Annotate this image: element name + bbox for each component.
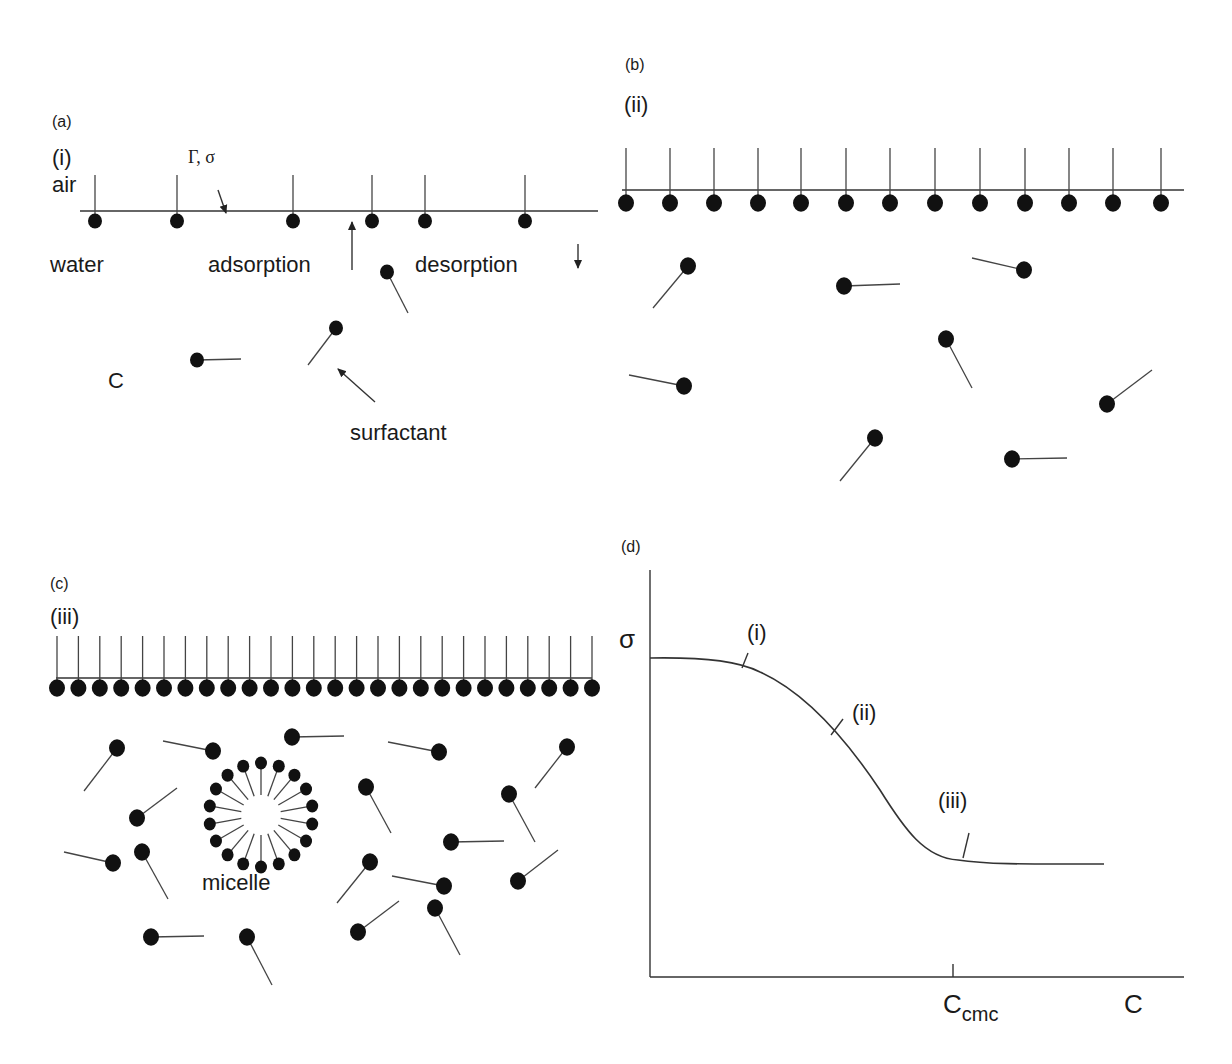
surfactant-molecule bbox=[972, 148, 988, 212]
surfactant-molecule bbox=[563, 636, 579, 697]
surfactant-molecule bbox=[281, 799, 319, 812]
hydrophilic-head bbox=[456, 679, 472, 696]
hydrophilic-head bbox=[170, 213, 184, 228]
hydrophobic-tail bbox=[629, 375, 684, 386]
hydrophilic-head bbox=[242, 679, 258, 696]
surfactant-molecule bbox=[255, 835, 267, 873]
region-label-iii: (iii) bbox=[938, 788, 967, 813]
hydrophilic-head bbox=[210, 835, 222, 848]
surfactant-molecule bbox=[938, 330, 972, 388]
hydrophilic-head bbox=[327, 679, 343, 696]
surfactant-molecule bbox=[135, 636, 151, 697]
hydrophilic-head bbox=[1061, 194, 1077, 211]
hydrophilic-head bbox=[662, 194, 678, 211]
surfactant-molecule bbox=[427, 899, 460, 955]
hydrophilic-head bbox=[105, 854, 121, 871]
surfactant-molecule bbox=[255, 757, 267, 795]
hydrophilic-head bbox=[306, 799, 318, 812]
surfactant-molecule bbox=[618, 148, 634, 212]
hydrophilic-head bbox=[443, 833, 459, 850]
hydrophilic-head bbox=[237, 857, 249, 870]
surfactant-molecule bbox=[286, 175, 300, 229]
hydrophilic-head bbox=[113, 679, 129, 696]
surfactant-molecule bbox=[64, 852, 121, 872]
hydrophilic-head bbox=[306, 679, 322, 696]
surfactant-molecules-c bbox=[49, 636, 600, 985]
surfactant-molecule bbox=[170, 175, 184, 229]
surfactant-molecule bbox=[365, 175, 379, 229]
panel-b: (b) (ii) bbox=[618, 56, 1184, 481]
surfactant-molecule bbox=[278, 783, 312, 805]
hydrophilic-head bbox=[237, 760, 249, 773]
surfactant-molecule bbox=[278, 825, 312, 847]
surfactant-molecule bbox=[113, 636, 129, 697]
surfactant-molecule bbox=[281, 818, 319, 831]
surfactant-molecule bbox=[972, 258, 1032, 279]
surfactant-molecule bbox=[520, 636, 536, 697]
hydrophilic-head bbox=[129, 809, 145, 826]
hydrophilic-head bbox=[836, 277, 852, 294]
hydrophilic-head bbox=[1004, 450, 1020, 467]
surfactant-molecule bbox=[498, 636, 514, 697]
hydrophilic-head bbox=[518, 213, 532, 228]
hydrophilic-head bbox=[380, 264, 394, 279]
hydrophilic-head bbox=[838, 194, 854, 211]
gamma-sigma-pointer bbox=[218, 190, 226, 213]
surfactant-molecule bbox=[177, 636, 193, 697]
surfactant-molecule bbox=[210, 783, 244, 805]
surfactant-molecules-b bbox=[618, 148, 1169, 481]
surfactant-adsorption-diagram: (a) (i) air water Γ, σ adsorption desorp… bbox=[0, 0, 1232, 1064]
hydrophilic-head bbox=[199, 679, 215, 696]
hydrophilic-head bbox=[49, 679, 65, 696]
water-label: water bbox=[49, 252, 104, 277]
hydrophilic-head bbox=[156, 679, 172, 696]
surfactant-molecule bbox=[501, 785, 535, 842]
hydrophilic-head bbox=[222, 769, 234, 782]
surfactant-molecule bbox=[220, 636, 236, 697]
surfactant-molecule bbox=[1004, 450, 1067, 467]
surfactant-molecule bbox=[380, 264, 408, 313]
surfactant-molecule bbox=[358, 778, 391, 833]
hydrophilic-head bbox=[300, 835, 312, 848]
hydrophilic-head bbox=[520, 679, 536, 696]
surfactant-molecule bbox=[237, 760, 254, 797]
hydrophilic-head bbox=[273, 857, 285, 870]
surfactant-molecule bbox=[350, 901, 399, 941]
hydrophilic-head bbox=[867, 429, 883, 446]
hydrophilic-head bbox=[559, 738, 575, 755]
panel-a-label: (a) bbox=[52, 113, 72, 130]
surfactant-molecule bbox=[308, 320, 343, 365]
hydrophobic-tail bbox=[1107, 370, 1152, 404]
hydrophilic-head bbox=[300, 783, 312, 796]
hydrophilic-head bbox=[927, 194, 943, 211]
surfactant-molecule bbox=[84, 739, 125, 791]
surfactant-molecule bbox=[1099, 370, 1152, 413]
surfactant-molecule bbox=[284, 728, 344, 745]
hydrophilic-head bbox=[418, 213, 432, 228]
surfactant-molecule bbox=[836, 277, 900, 294]
hydrophilic-head bbox=[88, 213, 102, 228]
surfactant-molecule bbox=[1153, 148, 1169, 212]
hydrophilic-head bbox=[501, 785, 517, 802]
micelle-label: micelle bbox=[202, 870, 270, 895]
hydrophilic-head bbox=[436, 877, 452, 894]
surfactant-molecule bbox=[584, 636, 600, 697]
surfactant-molecule bbox=[129, 788, 177, 827]
surfactant-molecule bbox=[263, 636, 279, 697]
hydrophilic-head bbox=[92, 679, 108, 696]
hydrophilic-head bbox=[750, 194, 766, 211]
surfactant-molecule bbox=[443, 833, 504, 850]
hydrophilic-head bbox=[413, 679, 429, 696]
hydrophilic-head bbox=[255, 861, 267, 874]
region-pointer bbox=[963, 833, 969, 858]
hydrophilic-head bbox=[938, 330, 954, 347]
surfactant-molecule bbox=[1061, 148, 1077, 212]
hydrophilic-head bbox=[362, 853, 378, 870]
hydrophilic-head bbox=[1153, 194, 1169, 211]
surfactant-molecule bbox=[210, 825, 244, 847]
hydrophilic-head bbox=[210, 783, 222, 796]
surfactant-molecule bbox=[413, 636, 429, 697]
hydrophilic-head bbox=[222, 848, 234, 861]
hydrophilic-head bbox=[427, 899, 443, 916]
hydrophilic-head bbox=[563, 679, 579, 696]
